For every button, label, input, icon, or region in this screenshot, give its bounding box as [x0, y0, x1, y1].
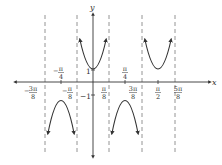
tick-label-pi-8: π 8: [101, 85, 107, 101]
svg-text:−: −: [53, 67, 58, 75]
svg-text:π: π: [102, 85, 107, 93]
svg-text:4: 4: [59, 73, 63, 81]
svg-text:4: 4: [123, 73, 127, 81]
y-label-1: 1: [86, 67, 91, 76]
svg-text:8: 8: [131, 93, 135, 101]
svg-text:2: 2: [156, 93, 160, 101]
y-label-neg-1: −1: [80, 92, 91, 101]
svg-text:5π: 5π: [174, 85, 183, 93]
svg-text:π: π: [59, 65, 64, 73]
svg-text:−: −: [62, 87, 67, 95]
x-axis-label: x: [212, 78, 217, 87]
svg-text:3π: 3π: [129, 85, 138, 93]
tick-label-3pi-8: 3π 8: [129, 85, 138, 101]
tick-label-pi-4: π 4: [122, 65, 128, 81]
svg-text:3π: 3π: [29, 85, 38, 93]
svg-text:π: π: [123, 65, 128, 73]
svg-text:8: 8: [31, 93, 35, 101]
svg-text:8: 8: [102, 93, 106, 101]
branch-up-right: [145, 40, 171, 69]
svg-text:π: π: [68, 85, 73, 93]
tick-label-neg-3pi-8: − 3π 8: [24, 85, 38, 101]
svg-text:π: π: [156, 85, 161, 93]
y-axis-label: y: [89, 3, 95, 12]
svg-text:8: 8: [176, 93, 180, 101]
branch-down-right: [112, 101, 138, 134]
svg-text:8: 8: [68, 93, 72, 101]
tick-label-pi-2: π 2: [155, 85, 161, 101]
tick-label-neg-pi-8: − π 8: [62, 85, 73, 101]
tick-label-neg-pi-4: − π 4: [53, 65, 64, 81]
tick-label-5pi-8: 5π 8: [174, 85, 183, 101]
secant-graph: x y 1 −1 − 3π 8 − π 4 − π 8 π 8 π 4 3π 8…: [0, 0, 222, 165]
branch-down-left: [48, 101, 74, 134]
